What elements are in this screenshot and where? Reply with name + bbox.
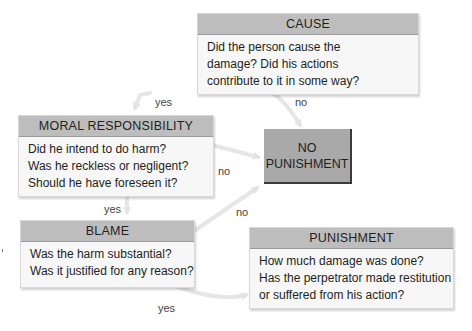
punishment-title: PUNISHMENT [250,228,453,249]
cause-question: damage? Did his actions [207,56,412,73]
cause-question: contribute to it in some way? [207,73,412,90]
edge-label-cause-yes: yes [155,96,172,108]
edge-label-blame-no: no [236,206,248,218]
edge-label-moral-no: no [218,165,230,177]
cause-title: CAUSE [198,14,418,35]
moral-question: Should he have foreseen it? [28,175,207,192]
moral-responsibility-node: MORAL RESPONSIBILITY Did he intend to do… [18,115,214,197]
edge-label-moral-yes: yes [104,203,121,215]
no-punishment-line: NO [264,140,350,156]
moral-question: Was he reckless or negligent? [28,158,207,175]
punishment-question: Has the perpetrator made restitution [259,270,447,287]
punishment-question: How much damage was done? [259,253,447,270]
moral-question: Did he intend to do harm? [28,141,207,158]
moral-responsibility-questions: Did he intend to do harm? Was he reckles… [19,137,213,196]
no-punishment-node: NO PUNISHMENT [264,129,352,184]
edge-label-blame-yes: yes [158,302,175,314]
blame-question: Was it justified for any reason? [30,263,188,280]
blame-questions: Was the harm substantial? Was it justifi… [21,242,194,284]
punishment-questions: How much damage was done? Has the perpet… [250,249,453,308]
moral-responsibility-title: MORAL RESPONSIBILITY [19,116,213,137]
blame-node: BLAME Was the harm substantial? Was it j… [20,220,195,288]
blame-title: BLAME [21,221,194,242]
arrow-cause-to-moral [135,93,150,108]
blame-question: Was the harm substantial? [30,246,188,263]
punishment-node: PUNISHMENT How much damage was done? Has… [249,227,454,309]
punishment-question: or suffered from his action? [259,287,447,304]
cause-questions: Did the person cause the damage? Did his… [198,35,418,94]
arrow-moral-to-nopunish [212,145,258,157]
no-punishment-line: PUNISHMENT [264,156,350,172]
cause-node: CAUSE Did the person cause the damage? D… [197,13,419,95]
edge-label-cause-no: no [295,96,307,108]
edge-mark [2,249,3,252]
cause-question: Did the person cause the [207,39,412,56]
